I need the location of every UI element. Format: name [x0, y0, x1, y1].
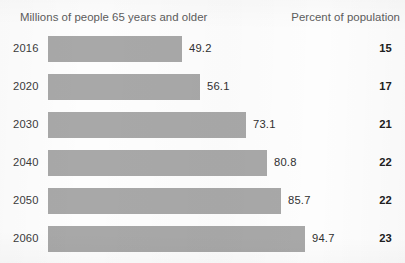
bar-value-label: 73.1	[253, 118, 276, 130]
bar-value-label: 85.7	[288, 194, 311, 206]
bar-row: 206094.723	[0, 226, 405, 263]
row-year-label: 2050	[13, 194, 45, 206]
header-millions-label: Millions of people 65 years and older	[20, 11, 207, 23]
bar-value-label: 49.2	[189, 42, 212, 54]
bar-row: 204080.822	[0, 150, 405, 188]
bar-row: 201649.215	[0, 36, 405, 74]
row-year-label: 2030	[13, 118, 45, 130]
header-percent-label: Percent of population	[291, 11, 400, 23]
bar-rows: 201649.215202056.117203073.121204080.822…	[0, 36, 405, 263]
bar-value-label: 80.8	[274, 156, 297, 168]
percent-value: 15	[379, 42, 392, 54]
row-year-label: 2016	[13, 42, 45, 54]
bar	[48, 36, 182, 62]
row-year-label: 2060	[13, 232, 45, 244]
percent-value: 22	[379, 194, 392, 206]
bar	[48, 188, 281, 214]
bar-value-label: 56.1	[207, 80, 230, 92]
percent-value: 23	[379, 232, 392, 244]
row-year-label: 2040	[13, 156, 45, 168]
bar-row: 205085.722	[0, 188, 405, 226]
bar-row: 202056.117	[0, 74, 405, 112]
bar-row: 203073.121	[0, 112, 405, 150]
bar	[48, 150, 267, 176]
bar-value-label: 94.7	[312, 232, 335, 244]
percent-value: 22	[379, 156, 392, 168]
bar	[48, 226, 305, 252]
percent-value: 21	[379, 118, 392, 130]
bar-chart-figure: Millions of people 65 years and older Pe…	[0, 0, 405, 263]
column-headers: Millions of people 65 years and older Pe…	[0, 11, 405, 31]
percent-value: 17	[379, 80, 392, 92]
bar	[48, 74, 200, 100]
bar	[48, 112, 246, 138]
row-year-label: 2020	[13, 80, 45, 92]
